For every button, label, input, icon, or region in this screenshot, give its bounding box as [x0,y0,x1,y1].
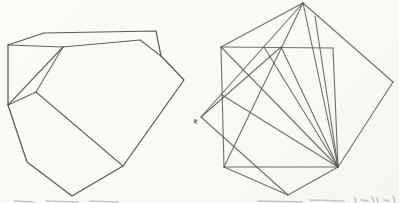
caption-remnant-mark [384,200,389,201]
caption-remnant-mark [361,200,368,201]
fold-edge [8,47,63,105]
left-polyhedron-figure [8,31,184,196]
edge-line [264,47,338,167]
ink-speck [194,119,198,124]
polyhedron-outline [8,31,184,196]
edge-line [338,82,393,167]
scanned-book-page [0,0,399,203]
caption-remnant-mark [90,201,118,202]
edge-line [201,117,288,195]
caption-remnant-mark [258,201,302,202]
right-polyhedron-figure [201,3,393,195]
caption-remnant-mark [46,201,78,202]
edge-line [224,3,303,167]
fold-edge [63,40,140,47]
caption-text-remnant [14,196,395,202]
edge-line [221,3,303,47]
caption-remnant-mark [393,196,395,202]
edge-line [221,47,338,167]
edge-line [224,167,288,195]
caption-remnant-mark [355,198,356,202]
fold-edge [8,45,63,47]
edge-line [221,47,224,167]
caption-remnant-mark [372,197,374,202]
caption-remnant-mark [377,198,378,202]
caption-remnant-mark [310,200,344,201]
edge-line [303,3,338,167]
caption-remnant-mark [14,201,34,202]
edge-line [221,47,333,48]
ink-speck-mark [194,119,198,124]
edge-line [303,3,393,82]
figures-canvas [0,0,399,203]
fold-edge [36,92,123,166]
fold-edge [8,92,36,105]
edge-line [288,167,338,195]
fold-edge [36,47,63,92]
